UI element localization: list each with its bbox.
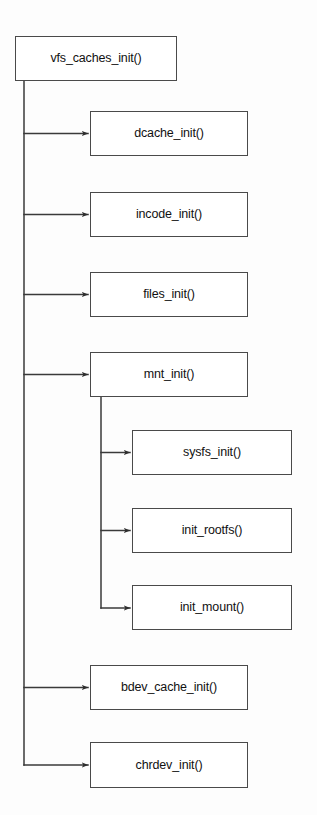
node-label-bdev-cache-init: bdev_cache_init() <box>121 681 217 694</box>
node-label-dcache-init: dcache_init() <box>134 127 204 140</box>
node-label-files-init: files_init() <box>143 288 195 301</box>
node-label-incode-init: incode_init() <box>136 208 202 221</box>
node-bdev-cache-init[interactable]: bdev_cache_init() <box>90 665 248 710</box>
flowchart-diagram: vfs_caches_init() dcache_init() incode_i… <box>0 0 317 815</box>
node-label-init-rootfs: init_rootfs() <box>182 524 243 537</box>
node-incode-init[interactable]: incode_init() <box>90 192 248 237</box>
node-label-sysfs-init: sysfs_init() <box>183 446 241 459</box>
node-vfs-caches-init[interactable]: vfs_caches_init() <box>15 36 177 81</box>
node-init-mount[interactable]: init_mount() <box>132 585 292 630</box>
node-mnt-init[interactable]: mnt_init() <box>90 352 248 397</box>
node-label-chrdev-init: chrdev_init() <box>136 759 203 772</box>
node-label-mnt-init: mnt_init() <box>144 368 195 381</box>
node-label-vfs-caches-init: vfs_caches_init() <box>50 52 141 65</box>
node-label-init-mount: init_mount() <box>180 601 244 614</box>
node-init-rootfs[interactable]: init_rootfs() <box>132 508 292 553</box>
node-chrdev-init[interactable]: chrdev_init() <box>90 742 248 788</box>
node-files-init[interactable]: files_init() <box>90 272 248 317</box>
node-sysfs-init[interactable]: sysfs_init() <box>132 430 292 475</box>
node-dcache-init[interactable]: dcache_init() <box>90 111 248 156</box>
